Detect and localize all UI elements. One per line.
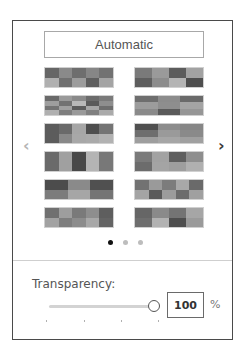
palette-color-cell <box>72 110 86 115</box>
palette-swatch[interactable] <box>44 95 114 116</box>
palette-color-cell <box>135 218 152 228</box>
palette-color-cell <box>149 180 163 190</box>
palette-swatch[interactable] <box>44 207 114 228</box>
palette-swatch[interactable] <box>44 67 114 88</box>
palette-color-cell <box>86 110 100 115</box>
page-dot-2[interactable] <box>123 240 128 245</box>
section-divider <box>13 260 232 261</box>
palette-color-cell <box>45 110 59 115</box>
palette-color-cell <box>59 152 73 171</box>
palette-color-cell <box>45 152 59 171</box>
palette-color-cell <box>90 180 113 190</box>
palette-color-cell <box>186 68 203 78</box>
palette-color-cell <box>86 78 100 88</box>
palette-color-cell <box>45 218 59 228</box>
transparency-value-input[interactable] <box>167 292 204 318</box>
palette-color-cell <box>135 190 149 200</box>
palette-color-cell <box>59 134 73 144</box>
palette-color-cell <box>169 68 186 78</box>
palette-color-cell <box>45 78 59 88</box>
palette-color-cell <box>45 134 59 144</box>
palette-color-cell <box>186 208 203 218</box>
palette-color-cell <box>45 180 68 190</box>
palette-color-cell <box>186 162 203 172</box>
palette-color-cell <box>45 124 59 134</box>
palette-color-cell <box>99 110 113 115</box>
palette-color-cell <box>135 208 152 218</box>
palette-swatch[interactable] <box>134 95 204 116</box>
palette-color-cell <box>59 208 73 218</box>
palette-color-cell <box>189 180 203 190</box>
palette-color-cell <box>152 78 169 88</box>
palette-color-cell <box>72 124 86 134</box>
palette-swatch[interactable] <box>134 179 204 200</box>
palette-color-cell <box>86 208 100 218</box>
palette-swatch[interactable] <box>44 123 114 144</box>
palette-color-cell <box>169 208 186 218</box>
palette-swatch[interactable] <box>134 207 204 228</box>
palette-color-cell <box>180 137 203 143</box>
palette-color-cell <box>86 218 100 228</box>
chevron-left-icon[interactable]: ‹ <box>23 138 30 154</box>
palette-color-cell <box>59 110 73 115</box>
palette-color-cell <box>72 68 86 78</box>
palette-color-cell <box>186 218 203 228</box>
palette-color-cell <box>59 124 73 134</box>
palette-color-cell <box>99 208 113 218</box>
slider-tick <box>46 320 47 322</box>
palette-color-cell <box>72 218 86 228</box>
palette-color-cell <box>59 218 73 228</box>
slider-tick <box>84 320 85 322</box>
palette-color-cell <box>169 218 186 228</box>
palette-color-cell <box>99 124 113 134</box>
transparency-label: Transparency: <box>32 277 115 291</box>
palette-color-cell <box>152 68 169 78</box>
palette-color-cell <box>186 152 203 162</box>
slider-tick <box>158 320 159 322</box>
palette-color-cell <box>59 68 73 78</box>
palette-color-cell <box>45 68 59 78</box>
percent-unit-label: % <box>210 298 220 311</box>
palette-color-cell <box>180 109 203 115</box>
palette-color-cell <box>86 68 100 78</box>
transparency-slider-track[interactable] <box>49 305 151 308</box>
palette-color-cell <box>68 190 91 200</box>
chevron-right-icon[interactable]: › <box>218 138 225 154</box>
palette-color-cell <box>86 134 100 144</box>
palette-color-cell <box>176 180 190 190</box>
palette-color-cell <box>99 134 113 144</box>
palette-swatch[interactable] <box>134 67 204 88</box>
palette-color-cell <box>68 180 91 190</box>
palette-color-cell <box>152 208 169 218</box>
automatic-button[interactable]: Automatic <box>44 31 204 58</box>
palette-color-cell <box>86 124 100 134</box>
palette-color-cell <box>72 152 86 171</box>
slider-tick <box>121 320 122 322</box>
palette-color-cell <box>135 152 152 162</box>
palette-swatch[interactable] <box>44 179 114 200</box>
page-dot-3[interactable] <box>138 240 143 245</box>
palette-color-cell <box>99 68 113 78</box>
palette-color-cell <box>99 218 113 228</box>
palette-color-cell <box>135 78 152 88</box>
palette-color-cell <box>169 162 186 172</box>
palette-color-cell <box>162 180 176 190</box>
palette-color-cell <box>45 190 68 200</box>
palette-swatch[interactable] <box>44 151 114 172</box>
palette-color-cell <box>152 218 169 228</box>
palette-swatch[interactable] <box>134 151 204 172</box>
palette-color-cell <box>135 68 152 78</box>
palette-color-cell <box>72 208 86 218</box>
palette-color-cell <box>158 109 181 115</box>
palette-color-cell <box>45 208 59 218</box>
palette-color-cell <box>135 137 158 143</box>
palette-swatch[interactable] <box>134 123 204 144</box>
page-dot-1[interactable] <box>108 240 113 245</box>
palette-color-cell <box>135 109 158 115</box>
transparency-slider-handle[interactable] <box>148 300 160 312</box>
palette-color-cell <box>72 78 86 88</box>
palette-color-cell <box>135 180 149 190</box>
palette-color-cell <box>99 78 113 88</box>
color-palette-panel: Automatic ‹ › Transparency: % <box>12 20 233 340</box>
palette-color-cell <box>169 152 186 162</box>
